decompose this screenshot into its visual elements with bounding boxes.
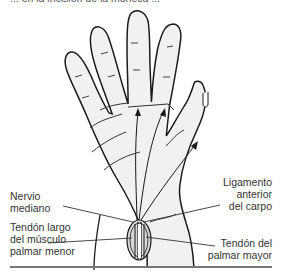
wrist-incision [127, 220, 151, 260]
label-palmaris-longus: Tendón largo del músculo palmar menor [10, 221, 75, 257]
thumb-nail [203, 92, 208, 107]
label-carpal-ligament: Ligamento anterior del carpo [223, 176, 272, 212]
label-flexor-carpi-radialis: Tendón del palmar mayor [208, 237, 272, 261]
forearm-left-edge [94, 215, 100, 270]
bottom-divider [10, 266, 272, 268]
label-median-nerve: Nervio mediano [10, 190, 50, 214]
